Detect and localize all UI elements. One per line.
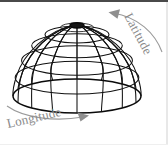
bottom-border-strip <box>0 144 168 145</box>
meridian-315 <box>32 25 77 108</box>
longitude-annotation: Longitude <box>5 104 89 131</box>
right-border-strip <box>166 2 168 145</box>
figure-container: Latitude Longitude <box>0 0 168 145</box>
meridian-022 <box>77 25 103 112</box>
meridian-338 <box>51 25 77 112</box>
longitude-arrowhead <box>78 113 90 122</box>
meridian-045 <box>77 25 122 108</box>
pole-knot <box>70 23 84 28</box>
dome-wireframe <box>13 23 141 113</box>
dome-globe-diagram: Latitude Longitude <box>0 0 168 145</box>
latitude-arrowhead <box>109 9 121 19</box>
